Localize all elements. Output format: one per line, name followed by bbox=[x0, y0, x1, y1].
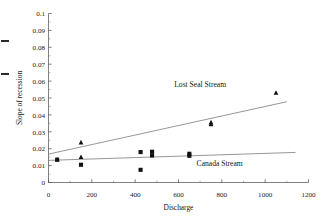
y-tick-label: 0 bbox=[41, 179, 45, 187]
x-tick-label: 800 bbox=[216, 191, 227, 199]
x-tick-label: 400 bbox=[130, 191, 141, 199]
trendlines-group bbox=[49, 102, 296, 161]
x-axis-title: Discharge bbox=[164, 203, 195, 212]
y-tick-label: 0.03 bbox=[33, 129, 46, 137]
y-tick-label: 0.01 bbox=[33, 162, 46, 170]
y-tick-label: 0.09 bbox=[33, 27, 46, 35]
x-axis-ticks bbox=[49, 179, 309, 182]
data-point-canada-stream bbox=[79, 163, 83, 167]
y-tick-label: 0.08 bbox=[33, 44, 46, 52]
data-point-lost-seal-stream bbox=[79, 154, 84, 159]
y-tick-label: 0.07 bbox=[33, 61, 46, 69]
y-tick-label: 0.04 bbox=[33, 112, 46, 120]
data-point-canada-stream bbox=[150, 153, 154, 157]
data-point-canada-stream bbox=[187, 154, 191, 158]
y-tick-label: 0.1 bbox=[36, 10, 45, 18]
y-axis-tick-labels: 0.1 0.09 0.08 0.07 0.06 0.05 0.04 0.03 0… bbox=[33, 10, 46, 187]
data-point-canada-stream bbox=[150, 150, 154, 154]
scatter-plot: 0.1 0.09 0.08 0.07 0.06 0.05 0.04 0.03 0… bbox=[0, 0, 324, 223]
y-axis-ticks bbox=[49, 14, 52, 183]
data-point-canada-stream bbox=[139, 168, 143, 172]
x-tick-label: 1000 bbox=[258, 191, 273, 199]
series-label-lost-seal-stream: Lost Seal Stream bbox=[174, 80, 226, 89]
series-label-canada-stream: Canada Stream bbox=[197, 159, 243, 168]
trendline-lost-seal-stream bbox=[49, 102, 287, 154]
y-tick-label: 0.05 bbox=[33, 95, 46, 103]
data-point-canada-stream bbox=[139, 150, 143, 154]
data-point-lost-seal-stream bbox=[79, 140, 84, 145]
trendline-canada-stream bbox=[49, 152, 296, 160]
data-markers-group bbox=[55, 90, 279, 172]
chart-figure: 0.1 0.09 0.08 0.07 0.06 0.05 0.04 0.03 0… bbox=[0, 0, 324, 223]
data-point-canada-stream bbox=[55, 158, 59, 162]
x-axis-tick-labels: 0 200 400 600 800 1000 1200 bbox=[47, 191, 316, 199]
x-tick-label: 1200 bbox=[301, 191, 316, 199]
y-axis-title: Slope of recession bbox=[15, 71, 24, 125]
x-tick-label: 200 bbox=[86, 191, 97, 199]
x-tick-label: 600 bbox=[173, 191, 184, 199]
y-tick-label: 0.02 bbox=[33, 145, 46, 153]
y-tick-label: 0.06 bbox=[33, 78, 46, 86]
x-tick-label: 0 bbox=[47, 191, 51, 199]
data-point-lost-seal-stream bbox=[274, 90, 279, 95]
